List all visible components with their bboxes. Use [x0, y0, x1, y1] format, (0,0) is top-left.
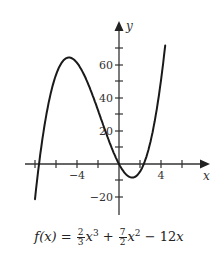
frac2-den: 2	[119, 238, 127, 247]
formula-x2: x	[128, 229, 135, 244]
y-tick-label-40: 40	[99, 92, 113, 105]
fraction-two-thirds: 23	[77, 228, 85, 247]
y-tick-label-neg20: −20	[90, 191, 113, 204]
function-plot: −4 4 60 40 20 −20 y x	[0, 0, 218, 230]
function-formula: f(x) = 23x3 + 72x2 − 12x	[0, 228, 218, 247]
x-axis-arrow-icon	[200, 160, 210, 169]
formula-x1: x	[86, 229, 93, 244]
y-axis-label: y	[125, 19, 133, 33]
y-tick-label-60: 60	[99, 59, 113, 72]
formula-plus: +	[99, 229, 118, 244]
x-tick-label-neg4: −4	[69, 169, 85, 182]
fraction-seven-halves: 72	[119, 228, 127, 247]
x-tick-label-4: 4	[158, 169, 165, 182]
formula-lhs: f(x) =	[34, 229, 75, 244]
y-axis-arrow-icon	[115, 21, 124, 31]
formula-x3: x	[176, 229, 183, 244]
frac1-den: 3	[77, 238, 85, 247]
formula-minus: − 12	[141, 229, 177, 244]
x-axis-label: x	[203, 169, 210, 183]
